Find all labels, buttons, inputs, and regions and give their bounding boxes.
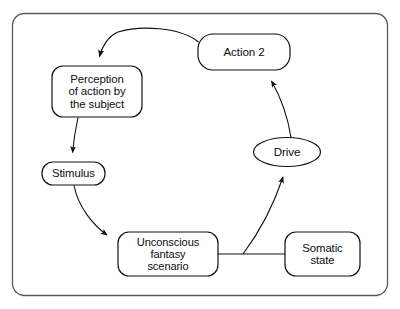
- node-action2[interactable]: [198, 34, 290, 70]
- node-perception[interactable]: [52, 66, 142, 117]
- edge-stimulus-to-unconscious: [74, 186, 107, 236]
- diagram-graphics: [0, 0, 400, 309]
- node-stimulus[interactable]: [42, 162, 105, 185]
- diagram-canvas: Perception of action by the subject Acti…: [0, 0, 400, 309]
- node-unconscious[interactable]: [118, 232, 218, 276]
- node-drive[interactable]: [254, 138, 321, 167]
- edge-drive-to-action2: [272, 81, 292, 138]
- edge-link-to-drive: [243, 177, 283, 254]
- edge-perception-to-stimulus: [73, 118, 78, 153]
- edge-action2-to-perception: [100, 28, 199, 56]
- node-somatic[interactable]: [285, 232, 360, 276]
